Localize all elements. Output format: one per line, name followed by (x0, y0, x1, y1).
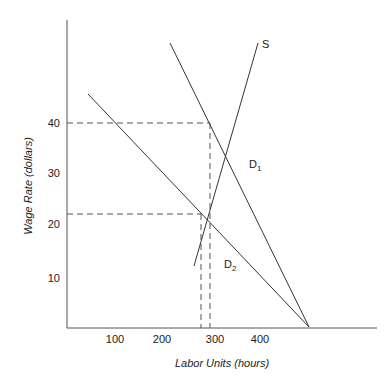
supply-curve-s (194, 43, 258, 266)
x-tick-400: 400 (251, 333, 269, 345)
y-tick-10: 10 (48, 272, 60, 284)
y-tick-40: 40 (48, 117, 60, 129)
y-tick-30: 30 (48, 167, 60, 179)
x-tick-100: 100 (106, 333, 124, 345)
y-tick-20: 20 (48, 218, 60, 230)
demand-curve-d2 (88, 94, 309, 327)
d2-label: D2 (224, 258, 237, 273)
y-axis-title: Wage Rate (dollars) (22, 137, 34, 235)
supply-label: S (262, 38, 269, 50)
x-tick-200: 200 (153, 333, 171, 345)
labor-market-chart: S D1 D2 40 30 20 10 100 200 300 400 Labo… (0, 0, 391, 383)
demand-curve-d1 (170, 43, 309, 327)
x-tick-300: 300 (206, 333, 224, 345)
d1-label: D1 (249, 158, 262, 173)
x-axis-title: Labor Units (hours) (175, 357, 269, 369)
